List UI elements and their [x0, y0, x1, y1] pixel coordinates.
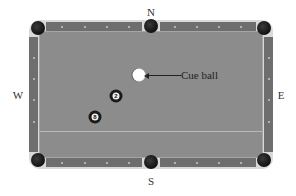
ball-8: 8 — [89, 111, 102, 124]
callout-arrow-line — [147, 75, 181, 76]
diamond-marker — [240, 162, 242, 164]
ball-number: 2 — [113, 93, 120, 100]
diamond-marker — [128, 26, 130, 28]
diamond-marker — [268, 78, 270, 80]
pool-table — [29, 20, 273, 169]
rail-bottom-left — [46, 158, 142, 167]
rail-top-left — [46, 22, 142, 31]
diamond-marker — [61, 162, 63, 164]
diamond-marker — [240, 26, 242, 28]
compass-north-label: N — [147, 7, 155, 18]
diamond-marker — [33, 57, 35, 59]
diamond-marker — [218, 162, 220, 164]
diamond-marker — [196, 162, 198, 164]
pocket-bottom-right — [257, 153, 271, 167]
pocket-top-left — [31, 21, 45, 35]
diamond-marker — [33, 78, 35, 80]
diamond-marker — [84, 26, 86, 28]
cue-ball-label: Cue ball — [181, 69, 218, 81]
compass-west-label: W — [13, 90, 23, 101]
pocket-bottom-left — [31, 153, 45, 167]
diamond-marker — [61, 26, 63, 28]
diamond-marker — [84, 162, 86, 164]
pocket-bottom-side — [144, 155, 158, 169]
diamond-marker — [268, 57, 270, 59]
diamond-marker — [33, 121, 35, 123]
diamond-marker — [174, 162, 176, 164]
ball-number: 8 — [92, 114, 99, 121]
diamond-marker — [174, 26, 176, 28]
diamond-marker — [106, 162, 108, 164]
diamond-marker — [106, 26, 108, 28]
pocket-top-right — [257, 21, 271, 35]
diamond-marker — [268, 99, 270, 101]
head-string-line — [40, 131, 262, 132]
rail-left — [29, 37, 38, 152]
diamond-marker — [218, 26, 220, 28]
diamond-marker — [128, 162, 130, 164]
rail-right — [264, 37, 273, 152]
ball-2: 2 — [110, 90, 123, 103]
table-felt — [39, 31, 263, 158]
rail-bottom-right — [160, 158, 256, 167]
pocket-top-side — [144, 19, 158, 33]
diamond-marker — [33, 99, 35, 101]
rail-top-right — [160, 22, 256, 31]
diamond-marker — [196, 26, 198, 28]
compass-east-label: E — [278, 90, 285, 101]
diamond-marker — [268, 121, 270, 123]
compass-south-label: S — [148, 176, 154, 187]
